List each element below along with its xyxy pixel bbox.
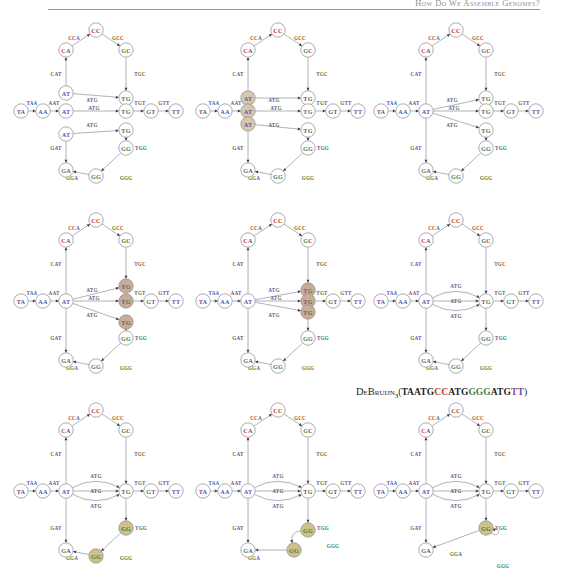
svg-text:GGG: GGG (497, 563, 510, 569)
svg-text:CC: CC (91, 407, 100, 414)
svg-text:AA: AA (220, 108, 230, 115)
svg-text:CCA: CCA (68, 415, 80, 421)
svg-text:TAA: TAA (208, 480, 219, 486)
svg-text:CA: CA (421, 237, 431, 244)
svg-text:CCA: CCA (428, 35, 440, 41)
svg-text:TA: TA (377, 298, 386, 305)
svg-text:TT: TT (532, 298, 541, 305)
svg-text:GG: GG (91, 553, 101, 560)
svg-text:AT: AT (422, 298, 431, 305)
svg-text:CC: CC (273, 27, 282, 34)
svg-text:AA: AA (38, 298, 48, 305)
svg-text:GGG: GGG (480, 175, 493, 181)
svg-text:TA: TA (17, 298, 26, 305)
svg-text:TGC: TGC (134, 261, 146, 267)
svg-text:TGG: TGG (135, 145, 147, 151)
svg-text:CC: CC (91, 27, 100, 34)
de-bruijn-graph: TAAAATCATCCAGCCTGCATGATGATGTGTGTTGATTGGG… (368, 208, 554, 394)
svg-text:GT: GT (146, 108, 156, 115)
panel-5-tg-collapsing: TAAAATCATCCAGCCTGCATGATGATGTGTGTTGATTGGG… (190, 208, 376, 394)
svg-text:CC: CC (273, 407, 282, 414)
svg-text:GCC: GCC (472, 225, 484, 231)
svg-text:GAT: GAT (232, 145, 244, 151)
svg-text:GG: GG (303, 527, 313, 534)
svg-text:GG: GG (481, 145, 491, 152)
svg-text:ATG: ATG (88, 295, 99, 301)
svg-text:TGT: TGT (494, 480, 506, 486)
svg-text:GC: GC (121, 47, 131, 54)
svg-text:TGG: TGG (317, 335, 329, 341)
svg-text:GGG: GGG (480, 365, 493, 371)
svg-text:GA: GA (243, 167, 253, 174)
svg-text:GC: GC (481, 47, 491, 54)
svg-text:GC: GC (481, 237, 491, 244)
svg-text:TGG: TGG (135, 335, 147, 341)
svg-text:GT: GT (328, 108, 338, 115)
svg-text:TGG: TGG (495, 145, 507, 151)
svg-text:AT: AT (62, 90, 71, 97)
svg-text:ATG: ATG (90, 503, 101, 509)
svg-text:CCA: CCA (68, 225, 80, 231)
svg-text:TT: TT (354, 108, 363, 115)
svg-text:GT: GT (146, 488, 156, 495)
svg-text:CA: CA (243, 237, 253, 244)
svg-text:AT: AT (62, 488, 71, 495)
svg-text:TAA: TAA (208, 100, 219, 106)
svg-text:ATG: ATG (268, 287, 279, 293)
svg-text:CAT: CAT (232, 451, 243, 457)
svg-text:GG: GG (91, 363, 101, 370)
svg-text:CAT: CAT (50, 71, 61, 77)
svg-text:ATG: ATG (88, 105, 99, 111)
svg-text:GA: GA (61, 547, 71, 554)
svg-text:AT: AT (62, 298, 71, 305)
svg-text:GGG: GGG (327, 543, 340, 549)
svg-text:AAT: AAT (230, 100, 241, 106)
svg-text:CAT: CAT (410, 451, 421, 457)
svg-text:CA: CA (243, 427, 253, 434)
svg-text:ATG: ATG (450, 283, 461, 289)
svg-text:TGC: TGC (494, 451, 506, 457)
svg-text:ATG: ATG (86, 312, 97, 318)
svg-text:ATG: ATG (268, 312, 279, 318)
svg-text:TG: TG (121, 298, 130, 305)
svg-text:TG: TG (121, 95, 130, 102)
svg-text:GA: GA (61, 167, 71, 174)
de-bruijn-graph: TAAAATCATCCAGCCTGCATGATGATGTGTGTTGATTGGG… (190, 208, 376, 394)
de-bruijn-graph: TAAAATCATCCAGCCTGCATGATGATGTGTGTTGATTGGG… (8, 398, 194, 574)
svg-text:GC: GC (481, 427, 491, 434)
svg-text:CA: CA (61, 237, 71, 244)
svg-text:ATG: ATG (86, 122, 97, 128)
svg-text:AT: AT (422, 488, 431, 495)
de-bruijn-graph: TAAAATCATCCAGCCTGCATGATGATGTGTGTTGATTGGG… (190, 398, 376, 574)
svg-text:AAT: AAT (230, 480, 241, 486)
panel-4-tg-selected: TAAAATCATCCAGCCTGCATGATGATGTGTGTTGATTGGG… (8, 208, 194, 394)
figure-page: How Do We Assemble Genomes? DeBruijn3(TA… (0, 0, 562, 574)
svg-text:CCA: CCA (68, 35, 80, 41)
svg-text:CC: CC (451, 407, 460, 414)
svg-text:GT: GT (146, 298, 156, 305)
svg-text:TG: TG (303, 95, 312, 102)
svg-text:TG: TG (121, 283, 130, 290)
svg-text:AT: AT (244, 298, 253, 305)
svg-text:TGC: TGC (494, 261, 506, 267)
svg-text:GT: GT (328, 488, 338, 495)
svg-text:GC: GC (121, 237, 131, 244)
svg-text:TGT: TGT (134, 290, 146, 296)
de-bruijn-graph: TAAAATCATCCAGCCTGCATGATGATGTGTGTTGATTGGG… (8, 208, 194, 394)
svg-text:TG: TG (481, 108, 490, 115)
svg-text:GTT: GTT (340, 100, 352, 106)
svg-text:TG: TG (303, 298, 312, 305)
svg-text:GA: GA (243, 357, 253, 364)
svg-text:TA: TA (377, 488, 386, 495)
svg-text:GTT: GTT (158, 480, 170, 486)
svg-text:GG: GG (273, 173, 283, 180)
svg-text:GT: GT (506, 298, 516, 305)
svg-text:GA: GA (61, 357, 71, 364)
svg-text:ATG: ATG (86, 287, 97, 293)
panel-7-gg-selected: TAAAATCATCCAGCCTGCATGATGATGTGTGTTGATTGGG… (8, 398, 194, 574)
svg-text:TG: TG (303, 309, 312, 316)
svg-text:TGC: TGC (134, 451, 146, 457)
panel-2-at-selected: TAAAATCATCCAGCCTGCATGATGATGTGTGTTGATTGGG… (190, 18, 376, 204)
svg-text:CAT: CAT (410, 261, 421, 267)
header-divider (48, 9, 540, 10)
